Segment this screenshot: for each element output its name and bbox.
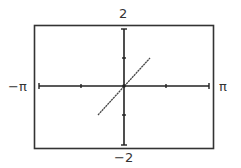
x-max-label: π (219, 80, 227, 93)
origin-point (122, 84, 126, 88)
plot-canvas (0, 0, 241, 168)
y-min-label: −2 (114, 151, 133, 164)
x-min-label: −π (8, 80, 27, 93)
y-max-label: 2 (119, 7, 127, 20)
